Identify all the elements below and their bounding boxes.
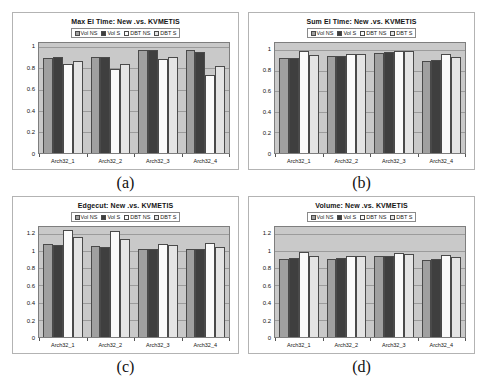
x-tick	[465, 154, 466, 157]
legend-swatch-icon	[390, 215, 395, 220]
x-axis-label: Arch32_1	[39, 338, 87, 351]
bar	[158, 244, 168, 337]
legend-swatch-icon	[337, 215, 342, 220]
bar	[279, 58, 289, 153]
legend-swatch-icon	[360, 31, 365, 36]
y-tick-label: 1	[268, 46, 271, 52]
bar	[356, 256, 366, 337]
bar	[215, 66, 225, 153]
bar	[186, 249, 196, 337]
y-tick-label: 0.8	[27, 265, 35, 271]
x-tick	[275, 338, 276, 341]
bar-group	[370, 227, 418, 337]
y-axis: 00.20.40.60.811.2	[16, 226, 38, 338]
panel-c: Edgecut: New .vs. KVMETIS Vol NSVol SDBT…	[12, 196, 239, 380]
bar	[384, 256, 394, 337]
x-axis-label: Arch32_2	[87, 154, 135, 167]
legend-swatch-icon	[75, 31, 80, 36]
plot-area	[274, 42, 466, 154]
x-tick	[465, 338, 466, 341]
chart-c: Edgecut: New .vs. KVMETIS Vol NSVol SDBT…	[12, 196, 239, 354]
legend-label: DBT NS	[366, 214, 386, 220]
legend-swatch-icon	[311, 215, 316, 220]
y-tick-label: 0	[268, 151, 271, 157]
bar	[120, 239, 130, 337]
legend-swatch-icon	[360, 215, 365, 220]
plot-area	[38, 42, 230, 154]
chart-title: Edgecut: New .vs. KVMETIS	[13, 202, 238, 209]
bar	[215, 247, 225, 337]
x-axis-label: Arch32_1	[275, 338, 323, 351]
legend-item: Vol S	[101, 30, 120, 36]
bar-group	[182, 43, 230, 153]
bar	[63, 230, 73, 337]
bar	[110, 231, 120, 337]
x-tick	[323, 154, 324, 157]
plot-wrap: 00.20.40.60.811.2	[16, 226, 230, 338]
x-axis-label: Arch32_3	[370, 154, 418, 167]
bar-group	[418, 43, 466, 153]
y-tick-label: 0	[32, 335, 35, 341]
y-tick-label: 0.6	[27, 86, 35, 92]
y-tick-label: 0.2	[27, 318, 35, 324]
legend-label: Vol NS	[81, 214, 98, 220]
bar	[148, 50, 158, 153]
legend-swatch-icon	[311, 31, 316, 36]
legend-item: DBT NS	[124, 214, 150, 220]
caption-d: (d)	[248, 354, 475, 380]
y-tick-label: 1	[32, 248, 35, 254]
bar	[53, 57, 63, 153]
panel-a: Max El Time: New .vs. KVMETIS Vol NSVol …	[12, 12, 239, 196]
y-tick-label: 0.4	[263, 109, 271, 115]
legend-label: DBT NS	[130, 214, 150, 220]
legend: Vol NSVol SDBT NSDBT S	[71, 28, 181, 38]
bar	[100, 57, 110, 153]
caption-a: (a)	[12, 170, 239, 196]
bar-group	[134, 43, 182, 153]
bar	[43, 58, 53, 153]
figure-grid: Max El Time: New .vs. KVMETIS Vol NSVol …	[0, 0, 477, 380]
plot-wrap: 00.20.40.60.81	[252, 42, 466, 154]
bar	[327, 56, 337, 153]
bar	[43, 244, 53, 337]
bar	[336, 258, 346, 337]
bar-group	[39, 43, 87, 153]
legend-label: DBT S	[396, 214, 412, 220]
x-tick	[370, 154, 371, 157]
y-tick-label: 1	[268, 248, 271, 254]
chart-title: Volume: New .vs. KVMETIS	[249, 202, 474, 209]
bar	[63, 64, 73, 153]
legend-label: DBT S	[160, 30, 176, 36]
x-tick	[87, 338, 88, 341]
x-axis: Arch32_1Arch32_2Arch32_3Arch32_4	[275, 154, 465, 167]
bar-group	[323, 227, 371, 337]
x-tick	[182, 338, 183, 341]
chart-d: Volume: New .vs. KVMETIS Vol NSVol SDBT …	[248, 196, 475, 354]
x-axis-label: Arch32_4	[418, 338, 466, 351]
legend-item: Vol NS	[311, 214, 334, 220]
bar	[289, 58, 299, 153]
legend-label: DBT NS	[130, 30, 150, 36]
bar	[346, 256, 356, 337]
y-tick-label: 0.4	[263, 300, 271, 306]
y-tick-label: 1	[32, 43, 35, 49]
x-axis-label: Arch32_2	[87, 338, 135, 351]
y-axis: 00.20.40.60.81	[252, 42, 274, 154]
x-tick	[418, 154, 419, 157]
bar	[404, 51, 414, 153]
x-axis-label: Arch32_2	[323, 154, 371, 167]
bar-group	[275, 227, 323, 337]
plot-area	[38, 226, 230, 338]
x-tick	[134, 154, 135, 157]
x-tick	[370, 338, 371, 341]
legend-swatch-icon	[390, 31, 395, 36]
x-tick	[39, 154, 40, 157]
x-axis-label: Arch32_1	[275, 154, 323, 167]
legend-swatch-icon	[124, 31, 129, 36]
x-axis-label: Arch32_4	[418, 154, 466, 167]
x-tick	[134, 338, 135, 341]
x-tick	[323, 338, 324, 341]
bar-group	[323, 43, 371, 153]
bar	[309, 256, 319, 337]
legend-label: Vol S	[107, 30, 120, 36]
